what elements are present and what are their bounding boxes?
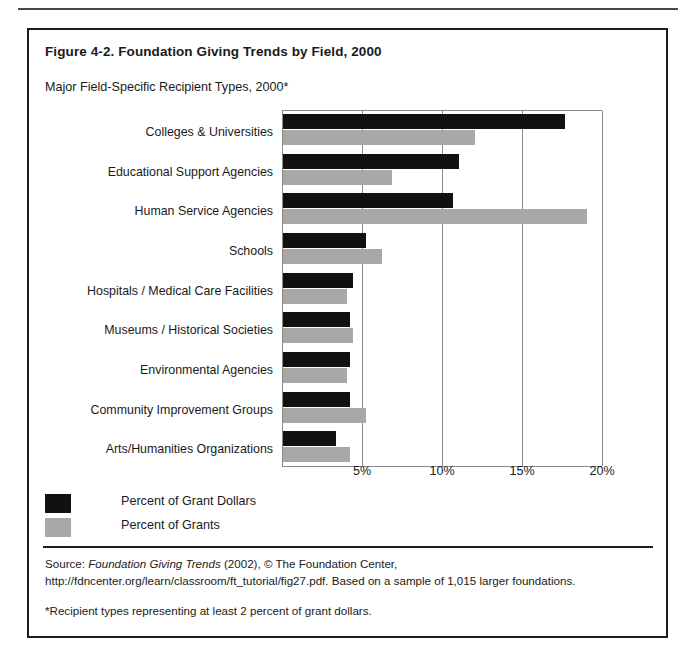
category-group: Colleges & Universities — [282, 114, 602, 154]
page-root: Figure 4-2. Foundation Giving Trends by … — [0, 0, 695, 663]
category-label: Schools — [229, 245, 273, 257]
bar-grants — [283, 170, 392, 185]
category-label: Arts/Humanities Organizations — [106, 443, 273, 455]
bar-grants — [283, 328, 353, 343]
figure-subtitle: Major Field-Specific Recipient Types, 20… — [45, 80, 288, 94]
figure-container: Figure 4-2. Foundation Giving Trends by … — [27, 28, 668, 638]
figure-title: Figure 4-2. Foundation Giving Trends by … — [45, 44, 382, 59]
category-group: Community Improvement Groups — [282, 392, 602, 432]
x-tick-label: 5% — [353, 464, 371, 478]
category-group: Hospitals / Medical Care Facilities — [282, 273, 602, 313]
category-label: Community Improvement Groups — [91, 404, 273, 416]
bar-grants — [283, 130, 475, 145]
category-label: Educational Support Agencies — [108, 166, 273, 178]
bar-grant-dollars — [283, 233, 366, 248]
category-label: Museums / Historical Societies — [104, 324, 273, 336]
legend-swatch — [45, 494, 71, 513]
bar-grant-dollars — [283, 114, 565, 129]
plot-area: Colleges & UniversitiesEducational Suppo… — [282, 110, 602, 467]
legend-label: Percent of Grants — [121, 518, 220, 532]
bar-grants — [283, 209, 587, 224]
legend-item: Percent of Grants — [45, 516, 445, 540]
bar-grant-dollars — [283, 154, 459, 169]
bar-grant-dollars — [283, 392, 350, 407]
x-tick-label: 15% — [509, 464, 534, 478]
bar-grants — [283, 408, 366, 423]
bar-chart: Colleges & UniversitiesEducational Suppo… — [29, 102, 666, 432]
category-label: Environmental Agencies — [140, 364, 273, 376]
legend-item: Percent of Grant Dollars — [45, 492, 445, 516]
x-tick-label: 10% — [429, 464, 454, 478]
bar-grant-dollars — [283, 352, 350, 367]
source-divider — [43, 546, 653, 548]
source-prefix: Source: — [45, 557, 88, 570]
bar-grant-dollars — [283, 312, 350, 327]
bar-grants — [283, 249, 382, 264]
category-group: Museums / Historical Societies — [282, 312, 602, 352]
legend-swatch — [45, 518, 71, 537]
bar-grant-dollars — [283, 431, 336, 446]
bar-grants — [283, 289, 347, 304]
bar-grant-dollars — [283, 193, 453, 208]
bar-grants — [283, 368, 347, 383]
bar-grant-dollars — [283, 273, 353, 288]
chart-legend: Percent of Grant DollarsPercent of Grant… — [45, 492, 445, 540]
category-group: Environmental Agencies — [282, 352, 602, 392]
category-label: Hospitals / Medical Care Facilities — [87, 285, 273, 297]
legend-label: Percent of Grant Dollars — [121, 494, 256, 508]
bar-grants — [283, 447, 350, 462]
source-publication-title: Foundation Giving Trends — [88, 557, 221, 570]
category-group: Schools — [282, 233, 602, 273]
page-top-rule — [18, 8, 678, 10]
category-group: Educational Support Agencies — [282, 154, 602, 194]
category-label: Human Service Agencies — [135, 205, 273, 217]
figure-footnote: *Recipient types representing at least 2… — [45, 602, 650, 619]
category-label: Colleges & Universities — [146, 126, 273, 138]
category-group: Human Service Agencies — [282, 193, 602, 233]
source-note: Source: Foundation Giving Trends (2002),… — [45, 555, 650, 589]
x-tick-label: 20% — [589, 464, 614, 478]
gridline-20pct — [602, 111, 603, 466]
